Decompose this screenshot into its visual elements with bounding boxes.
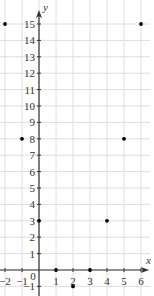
y-tick-label: 5	[30, 182, 36, 194]
y-tick-label: 7	[30, 149, 36, 161]
y-tick-label: 9	[30, 116, 36, 128]
data-point	[20, 137, 24, 141]
chart-canvas: −2−10123456−1123456789101112131415 x y	[0, 0, 154, 296]
grid	[0, 0, 150, 296]
y-tick-label: 15	[24, 18, 36, 30]
y-tick-label: 1	[30, 248, 36, 260]
data-point	[3, 22, 7, 26]
y-tick-label: 2	[30, 231, 36, 243]
data-point	[37, 219, 41, 223]
data-point	[105, 219, 109, 223]
x-tick-label: 5	[121, 275, 127, 287]
y-tick-label: 13	[24, 51, 36, 63]
scatter-chart: −2−10123456−1123456789101112131415 x y	[0, 0, 154, 296]
y-tick-label: 4	[30, 198, 36, 210]
y-axis-label: y	[42, 1, 48, 13]
y-tick-label: 6	[30, 166, 36, 178]
data-point	[122, 137, 126, 141]
x-tick-label: 3	[87, 275, 93, 287]
x-tick-label: 6	[138, 275, 144, 287]
data-point	[88, 268, 92, 272]
x-tick-label: 4	[104, 275, 110, 287]
y-tick-label: 12	[24, 67, 35, 79]
data-point	[54, 268, 58, 272]
data-point	[71, 285, 75, 289]
y-tick-label: −1	[23, 280, 35, 292]
y-tick-label: 14	[24, 34, 36, 46]
y-tick-label: 3	[30, 215, 36, 227]
y-tick-label: 10	[24, 100, 36, 112]
y-tick-label: 11	[24, 84, 35, 96]
data-point	[139, 22, 143, 26]
x-tick-label: −2	[0, 275, 11, 287]
x-axis-label: x	[145, 254, 151, 266]
x-tick-label: 1	[53, 275, 59, 287]
y-tick-label: 8	[30, 133, 36, 145]
